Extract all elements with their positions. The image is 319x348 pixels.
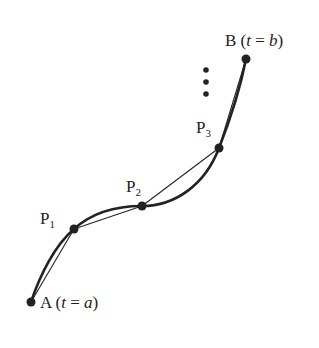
point-b	[242, 55, 251, 64]
label-p1: P1	[40, 209, 55, 230]
label-p3: P3	[196, 118, 211, 139]
curve-diagram: A (t = a) P1 P2 P3 B (t = b)	[0, 0, 319, 348]
chords	[31, 59, 246, 302]
point-a	[27, 298, 36, 307]
point-p2	[138, 202, 147, 211]
point-p3	[215, 144, 224, 153]
label-b: B (t = b)	[225, 31, 283, 50]
label-a: A (t = a)	[40, 293, 98, 312]
point-p1	[70, 225, 79, 234]
label-p2: P2	[126, 177, 141, 198]
ellipsis-dots	[203, 67, 209, 97]
points	[27, 55, 251, 307]
curve	[31, 59, 246, 302]
